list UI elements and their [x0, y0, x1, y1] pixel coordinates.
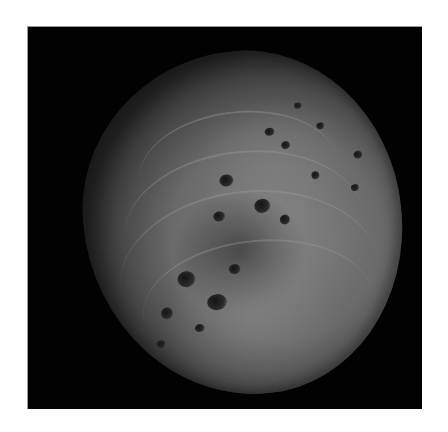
- crater: [294, 102, 303, 109]
- crater: [351, 184, 360, 192]
- crater: [316, 122, 325, 130]
- asteroid: [67, 35, 419, 409]
- crater: [353, 150, 363, 159]
- space-background: [27, 26, 422, 409]
